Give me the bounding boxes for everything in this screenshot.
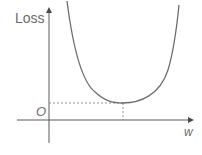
origin-label: O <box>36 104 46 119</box>
loss-curve <box>67 1 179 103</box>
x-axis-label: w <box>184 125 193 139</box>
y-axis-label: Loss <box>15 10 45 26</box>
